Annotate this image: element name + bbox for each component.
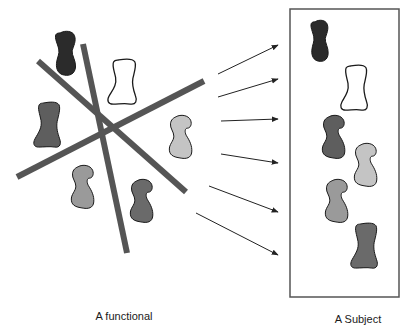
blob-darkgray-shape (130, 179, 153, 222)
functional-group (17, 31, 204, 253)
blob-black-shape (311, 20, 328, 61)
blob-white-shape (108, 59, 136, 104)
blob-medium-shape (71, 165, 94, 208)
arrow-3 (221, 119, 278, 121)
arrow-4 (221, 154, 278, 163)
subject-label: A Subject (335, 313, 381, 325)
diagram-canvas (0, 0, 416, 328)
blob-light-shape (169, 115, 192, 158)
blob-medium-shape (325, 179, 348, 222)
blob-white-shape (341, 65, 368, 110)
blob-dark-shape (322, 115, 345, 158)
arrow-6 (196, 213, 278, 255)
mapping-arrows (196, 45, 278, 255)
blob-light-shape (354, 143, 377, 186)
blob-dark-shape (34, 102, 61, 147)
arrow-2 (218, 79, 278, 97)
blob-black-shape (55, 31, 75, 75)
arrow-1 (218, 45, 278, 74)
functional-label: A functional (96, 310, 153, 322)
subject-box (290, 9, 399, 297)
arrow-5 (209, 186, 278, 212)
blob-darkgray-shape (351, 223, 378, 268)
